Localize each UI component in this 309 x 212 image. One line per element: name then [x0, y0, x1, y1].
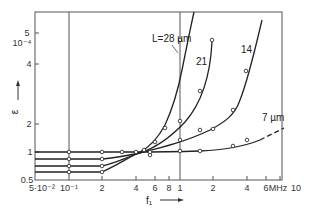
x-tick-6: 6 — [263, 183, 268, 193]
curve-label-21: 21 — [196, 56, 208, 67]
y-axis-arrow-icon — [16, 80, 20, 100]
curve-label-14: 14 — [241, 44, 253, 55]
x-axis-arrow-icon — [160, 198, 184, 202]
y-ticks — [35, 33, 39, 152]
chart: 5 10⁻⁴ 4 2 1 0.5 ε 5·10⁻² 10⁻¹ 2 4 6 8 1… — [0, 0, 309, 212]
data-markers — [67, 38, 249, 174]
x-tick-1: 1 — [177, 183, 182, 193]
y-axis-label: ε — [9, 109, 20, 114]
curve-label-7um: 7 µm — [262, 112, 284, 123]
x-tick-4: 4 — [244, 183, 249, 193]
y-tick-4: 4 — [26, 59, 31, 69]
x-unit-mhz: MHz — [269, 183, 288, 193]
curve-21um — [35, 42, 212, 166]
x-tick-0.4: 4 — [133, 183, 138, 193]
x-tick-0.05: 5·10⁻² — [29, 183, 55, 193]
x-tick-2: 2 — [210, 183, 215, 193]
x-tick-0.6: 6 — [152, 183, 157, 193]
y-tick-2: 2 — [26, 119, 31, 129]
curve-label-28um: L=28 µm — [152, 33, 191, 44]
y-multiplier: 10⁻⁴ — [13, 38, 32, 48]
y-tick-1: 1 — [27, 147, 32, 157]
x-tick-0.8: 8 — [166, 183, 171, 193]
x-tick-0.2: 2 — [99, 183, 104, 193]
curve-label-28um-leader — [172, 45, 178, 53]
curve-7um-dashed — [260, 128, 284, 140]
x-ticks — [102, 176, 280, 180]
y-tick-5: 5 — [24, 28, 29, 38]
x-tick-10: 10 — [291, 183, 301, 193]
x-tick-0.1: 10⁻¹ — [60, 183, 78, 193]
x-axis-label: f₁ — [146, 195, 153, 206]
